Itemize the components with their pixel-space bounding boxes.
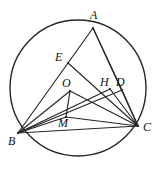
segment-om xyxy=(66,91,70,117)
segment-oc xyxy=(70,91,138,126)
vertex-point-B xyxy=(17,132,19,134)
geometry-canvas xyxy=(0,0,158,170)
point-label-M: M xyxy=(58,117,68,129)
segment-ec xyxy=(68,63,138,126)
point-label-B: B xyxy=(8,135,15,147)
vertex-point-E xyxy=(67,62,69,64)
point-label-D: D xyxy=(116,76,125,88)
point-label-H: H xyxy=(100,76,109,88)
vertex-point-A xyxy=(92,27,94,29)
vertex-point-D xyxy=(121,89,123,91)
vertex-point-H xyxy=(109,88,111,90)
point-label-C: C xyxy=(143,121,151,133)
segment-mc xyxy=(66,117,138,126)
point-label-E: E xyxy=(55,51,62,63)
point-label-O: O xyxy=(62,77,71,89)
circumscribed-circle xyxy=(10,20,146,156)
point-label-A: A xyxy=(90,9,97,21)
vertex-point-C xyxy=(137,125,139,127)
vertex-point-O xyxy=(69,90,71,92)
geometry-figure: A B C E O H D M xyxy=(0,0,158,170)
